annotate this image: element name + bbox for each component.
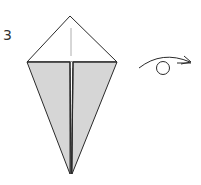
right-flap bbox=[72, 62, 117, 174]
center-gap bbox=[71, 62, 73, 68]
left-flap bbox=[27, 62, 70, 174]
turn-over-icon bbox=[139, 56, 191, 75]
kite-top-triangle bbox=[27, 16, 117, 62]
origami-diagram bbox=[0, 0, 201, 185]
